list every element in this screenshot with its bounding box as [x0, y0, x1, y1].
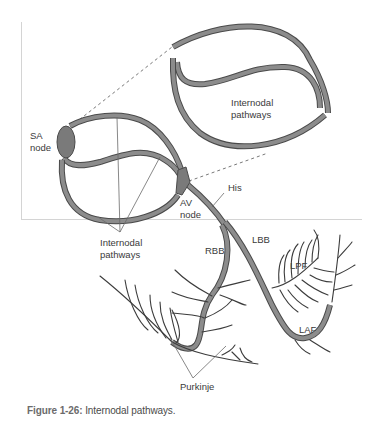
internodal-pathways-label: Internodal — [100, 237, 142, 248]
figure-caption-text: Internodal pathways. — [82, 405, 175, 416]
laf-label: LAF — [299, 324, 317, 335]
figure-caption-label: Figure 1-26: — [27, 405, 82, 416]
inset-internodal-pathways — [173, 26, 328, 146]
his-leader — [212, 193, 224, 207]
av-node — [176, 167, 190, 195]
av-node-label: AV — [180, 197, 193, 208]
figure-caption: Figure 1-26: Internodal pathways. — [27, 405, 175, 416]
internodal-leader-1 — [117, 117, 120, 232]
internodal-pathways-label-2: pathways — [100, 249, 140, 260]
lpf-label: LPF — [290, 260, 308, 271]
left-bundle-branch — [225, 222, 330, 338]
purkinje-leader-1 — [170, 338, 193, 378]
lbb-label: LBB — [252, 234, 270, 245]
inset-internodal-label: Internodal — [231, 97, 273, 108]
purkinje-fibers-right — [100, 270, 258, 364]
inset-internodal-label-2: pathways — [231, 109, 271, 120]
av-node-label-2: node — [180, 209, 201, 220]
purkinje-label: Purkinje — [180, 381, 214, 392]
sa-node-label: SA — [30, 130, 43, 141]
sa-node — [57, 126, 75, 158]
conduction-system-diagram: .path-band { fill: none; stroke: #4a4a4a… — [0, 0, 374, 433]
rbb-label: RBB — [205, 245, 225, 256]
sa-node-label-2: node — [30, 142, 51, 153]
purkinje-leader-2 — [193, 346, 226, 378]
zoom-line-bottom — [189, 153, 268, 181]
his-label: His — [228, 182, 242, 193]
atrial-internodal-loop — [62, 115, 182, 221]
